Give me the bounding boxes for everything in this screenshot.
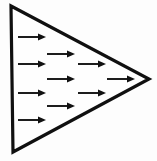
vector-field-diagram (0, 0, 157, 161)
figure-container (0, 0, 157, 161)
